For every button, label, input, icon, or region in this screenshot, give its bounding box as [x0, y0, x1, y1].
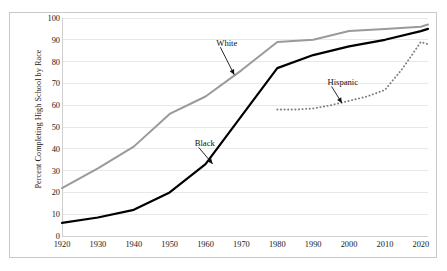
x-tick-label: 2020 — [401, 240, 441, 249]
y-tick-label: 30 — [34, 166, 60, 175]
annotation-label-white: White — [216, 38, 237, 48]
y-tick-label: 40 — [34, 144, 60, 153]
y-tick-label: 100 — [34, 14, 60, 23]
y-tick-label: 70 — [34, 79, 60, 88]
x-tick-label: 1930 — [78, 240, 118, 249]
x-tick-label: 1970 — [221, 240, 261, 249]
y-tick-label: 80 — [34, 57, 60, 66]
x-axis-tick-labels: 1920193019401950196019701980199020002010… — [0, 240, 447, 254]
gridlines — [62, 18, 428, 236]
x-tick-label: 1940 — [114, 240, 154, 249]
y-tick-label: 10 — [34, 210, 60, 219]
x-tick-label: 1980 — [257, 240, 297, 249]
x-tick-label: 1950 — [150, 240, 190, 249]
x-tick-label: 1960 — [186, 240, 226, 249]
y-axis-tick-labels: 0102030405060708090100 — [34, 18, 60, 236]
annotation-label-hispanic: Hispanic — [328, 77, 359, 87]
series-lines — [62, 25, 428, 223]
y-tick-label: 50 — [34, 123, 60, 132]
annotation-label-black: Black — [195, 138, 215, 148]
y-tick-label: 20 — [34, 188, 60, 197]
chart-figure: Percent Completing High School by Race 0… — [0, 0, 447, 271]
y-tick-label: 90 — [34, 35, 60, 44]
x-tick-label: 1990 — [293, 240, 333, 249]
series-line-black — [62, 29, 428, 223]
x-tick-label: 2010 — [365, 240, 405, 249]
x-tick-label: 2000 — [329, 240, 369, 249]
x-tick-label: 1920 — [42, 240, 82, 249]
series-line-hispanic — [277, 42, 428, 110]
y-tick-label: 60 — [34, 101, 60, 110]
series-line-white — [62, 25, 428, 189]
